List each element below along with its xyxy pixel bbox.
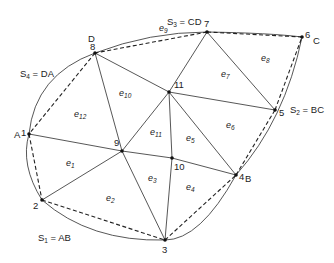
element-label-e12: e12 <box>74 109 87 120</box>
element-label-e2: e2 <box>106 193 115 204</box>
node-label-11: 11 <box>174 79 184 90</box>
node-label-9: 9 <box>114 137 119 148</box>
corner-label-C: C <box>313 35 320 46</box>
node-2 <box>40 198 44 202</box>
node-10 <box>170 156 174 160</box>
boundary-label-s2: S2 = BC <box>290 104 324 116</box>
element-label-e7: e7 <box>221 69 230 80</box>
node-label-7: 7 <box>204 18 209 29</box>
element-label-e11: e11 <box>150 127 162 138</box>
element-label-e10: e10 <box>119 88 132 99</box>
mesh-nodes: 1234567891011 <box>21 18 310 255</box>
node-3 <box>163 238 167 242</box>
corner-label-D: D <box>88 33 95 44</box>
node-6 <box>300 35 304 39</box>
boundary-label-s3: S3 = CD <box>167 16 202 28</box>
node-label-1: 1 <box>21 127 26 138</box>
element-label-e8: e8 <box>261 53 270 64</box>
element-label-e6: e6 <box>226 120 235 131</box>
node-7 <box>205 30 209 34</box>
fem-mesh-diagram: 1234567891011 e1e2e3e4e5e6e7e8e9e10e11e1… <box>0 0 334 263</box>
node-label-10: 10 <box>174 161 185 172</box>
node-11 <box>167 90 171 94</box>
corner-label-A: A <box>14 129 21 140</box>
element-label-e1: e1 <box>66 158 75 169</box>
node-4 <box>234 173 238 177</box>
node-label-4: 4 <box>239 171 244 182</box>
boundary-labels: S1 = ABS2 = BCS3 = CDS4 = DA <box>20 16 324 244</box>
boundary-label-s1: S1 = AB <box>38 232 71 244</box>
node-label-2: 2 <box>33 200 38 211</box>
corner-label-B: B <box>245 173 251 184</box>
element-label-e3: e3 <box>148 173 157 184</box>
boundary-label-s4: S4 = DA <box>20 68 55 80</box>
node-1 <box>27 132 31 136</box>
dashed-boundary <box>29 32 302 240</box>
node-label-5: 5 <box>279 107 284 118</box>
node-5 <box>273 108 277 112</box>
node-9 <box>120 149 124 153</box>
element-label-e5: e5 <box>186 133 195 144</box>
element-label-e4: e4 <box>186 182 195 193</box>
node-label-6: 6 <box>305 29 310 40</box>
node-label-3: 3 <box>162 244 167 255</box>
